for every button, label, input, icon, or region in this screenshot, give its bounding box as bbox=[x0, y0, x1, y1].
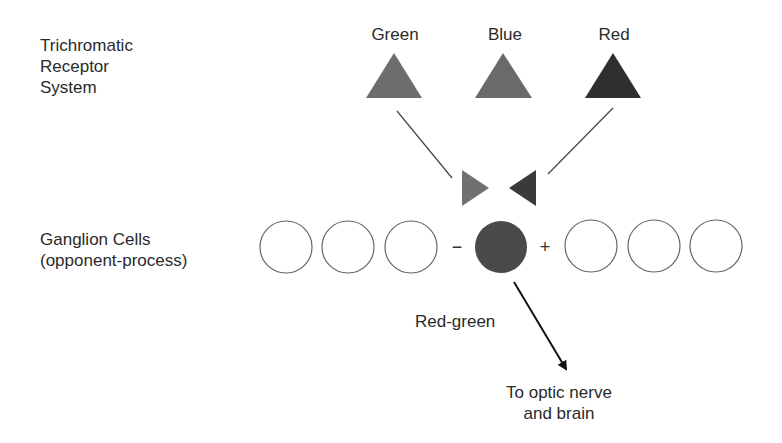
ganglion-cell bbox=[565, 220, 617, 272]
label-line: To optic nerve bbox=[506, 382, 612, 403]
red-input-triangle-icon bbox=[509, 170, 536, 206]
red-receptor-triangle-icon bbox=[585, 53, 641, 98]
diagram-graphics: − + bbox=[0, 0, 782, 443]
red-connector-line bbox=[548, 108, 613, 174]
ganglion-cell bbox=[322, 221, 374, 273]
green-receptor-triangle-icon bbox=[366, 53, 422, 98]
active-ganglion-cell bbox=[475, 221, 527, 273]
ganglion-cell bbox=[628, 220, 680, 272]
label-line: and brain bbox=[506, 403, 612, 424]
plus-sign: + bbox=[540, 237, 551, 257]
ganglion-cell bbox=[385, 221, 437, 273]
ganglion-cell bbox=[690, 220, 742, 272]
green-input-triangle-icon bbox=[462, 170, 489, 206]
red-green-label: Red-green bbox=[415, 311, 495, 332]
minus-sign: − bbox=[452, 237, 463, 257]
green-connector-line bbox=[397, 111, 452, 178]
output-arrow bbox=[514, 282, 566, 369]
ganglion-cell bbox=[260, 221, 312, 273]
destination-label: To optic nerve and brain bbox=[506, 382, 612, 424]
blue-receptor-triangle-icon bbox=[475, 53, 532, 98]
